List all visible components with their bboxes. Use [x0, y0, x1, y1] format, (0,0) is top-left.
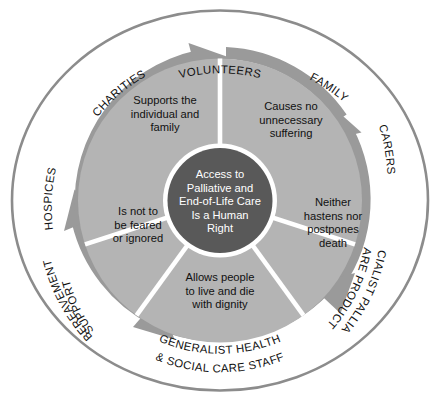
center-line-4: Is a Human [191, 209, 248, 221]
svg-text:Is not to: Is not to [118, 205, 158, 217]
center-line-2: Palliative and [187, 182, 254, 194]
svg-text:be feared: be feared [114, 219, 161, 231]
svg-text:or ignored: or ignored [113, 232, 163, 244]
svg-text:family: family [150, 121, 180, 133]
ring-label-carers: CARERS [377, 123, 398, 175]
svg-text:death: death [319, 237, 347, 249]
svg-text:Supports the: Supports the [133, 94, 196, 106]
segment-label-live-and-die: Allows people to live and die with digni… [185, 271, 254, 310]
svg-text:Allows people: Allows people [185, 271, 254, 283]
svg-text:suffering: suffering [270, 127, 313, 139]
svg-text:Causes no: Causes no [264, 100, 318, 112]
svg-text:with dignity: with dignity [191, 298, 248, 310]
svg-text:to live and die: to live and die [185, 285, 254, 297]
svg-text:unnecessary: unnecessary [259, 114, 323, 126]
svg-text:Neither: Neither [315, 196, 351, 208]
svg-text:individual and: individual and [131, 108, 199, 120]
segment-label-not-feared: Is not to be feared or ignored [113, 205, 163, 244]
svg-text:postpones: postpones [307, 223, 359, 235]
svg-text:hastens nor: hastens nor [304, 210, 363, 222]
wheel-svg: Access to Palliative and End-of-Life Car… [0, 0, 440, 401]
center-line-5: Right [207, 222, 234, 234]
center-line-3: End-of-Life Care [179, 195, 261, 207]
ring-label-hospices: HOSPICES [42, 166, 58, 231]
center-line-1: Access to [196, 168, 245, 180]
palliative-care-wheel-diagram: Access to Palliative and End-of-Life Car… [0, 0, 440, 401]
